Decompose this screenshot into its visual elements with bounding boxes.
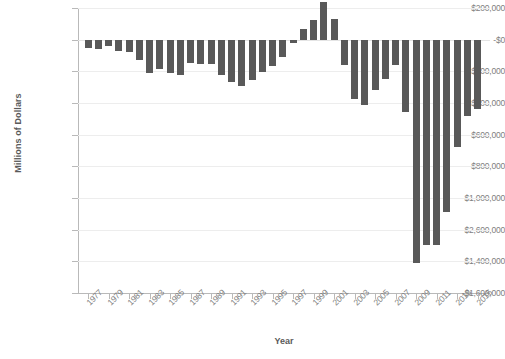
bar [464,40,471,117]
bar [361,40,368,105]
bar [208,40,215,64]
bar [413,40,420,264]
bar [433,40,440,246]
bar [228,40,235,83]
bar [372,40,379,90]
bar [443,40,450,212]
bar [341,40,348,65]
bar [402,40,409,113]
bar [320,2,327,39]
bar [382,40,389,79]
y-axis-title: Millions of Dollars [13,63,23,203]
bar [279,40,286,57]
bar [300,29,307,40]
bar [156,40,163,69]
bar [85,40,92,48]
bar [167,40,174,74]
bar-chart: Millions of Dollars Year $200,000-$0-$20… [0,0,505,359]
bar [218,40,225,75]
bar [136,40,143,60]
bar [290,40,297,43]
bar [423,40,430,245]
caption-strip [0,350,505,359]
bar [115,40,122,52]
bar [249,40,256,80]
bar [197,40,204,65]
x-axis-title: Year [78,336,490,346]
bar [146,40,153,73]
bar [177,40,184,75]
bar [392,40,399,65]
bar [187,40,194,64]
bar [238,40,245,86]
bar [95,40,102,49]
bar [454,40,461,148]
bar [474,40,481,109]
bar [126,40,133,53]
plot-area [78,8,490,293]
bar [259,40,266,72]
bar [331,19,338,39]
bar [105,40,112,46]
bar [351,40,358,100]
bar [310,20,317,40]
bar [269,40,276,66]
y-axis-tick [72,293,79,294]
